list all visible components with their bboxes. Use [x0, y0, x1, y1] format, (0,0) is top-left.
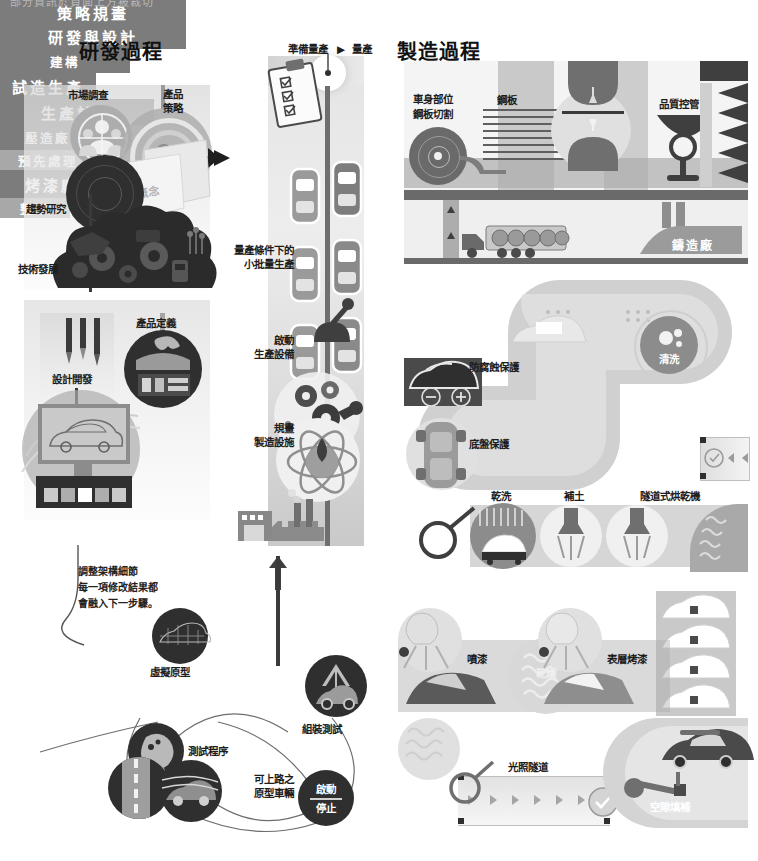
toggle-divider	[310, 798, 342, 800]
checklist-clipboard-icon	[270, 58, 326, 130]
car-top-view-2	[330, 158, 364, 220]
label-tech-development: 技術發展	[18, 262, 58, 276]
label-small-batch: 量產條件下的小批量生產	[212, 243, 294, 271]
car-door-icon-1	[404, 660, 504, 712]
pillar-markers	[444, 204, 458, 260]
monitor-stand	[74, 464, 92, 476]
filler-nozzle-icon-1	[552, 508, 590, 562]
magnifier-icon	[418, 508, 480, 560]
deck-key-3	[78, 488, 92, 502]
deck-key-2	[61, 488, 75, 502]
bar-foundry[interactable]: 鑄造廠	[672, 238, 714, 254]
slider-handle-bl[interactable]	[700, 473, 706, 479]
car-top-view-4	[330, 236, 364, 298]
aero-car-icon	[162, 768, 220, 816]
deck-key-1	[44, 488, 58, 502]
label-design-development: 設計開發	[52, 372, 92, 386]
saw-blade-icon	[700, 61, 748, 191]
page-title-development: 研發過程	[79, 36, 163, 65]
toggle-label-stop: 停止	[298, 801, 354, 815]
pens-icon	[62, 318, 106, 370]
lever-icon	[306, 300, 358, 344]
slider-controls-icon[interactable]	[704, 448, 750, 468]
car-door-icon-2	[542, 660, 642, 712]
label-assembly-test: 組裝測試	[302, 722, 342, 736]
label-start-equipment: 啟動生產設備	[212, 333, 294, 361]
tunnel-handle-bl[interactable]	[458, 818, 464, 824]
label-road-legal-prototype: 可上路之原型車輛	[230, 772, 294, 800]
toggle-label-start: 啟動	[298, 782, 354, 796]
label-quality-control: 品質控管	[659, 97, 699, 111]
leveling-cars-icon	[660, 596, 732, 714]
tunnel-dryer-waves-icon	[690, 500, 748, 574]
magnifier-icon-bottom	[445, 760, 497, 804]
trend-ring-2	[88, 177, 122, 211]
label-product-definition: 產品定義	[136, 316, 176, 330]
pretreatment-car-icon	[508, 308, 594, 348]
label-body-panel-cut: 車身部位鋼板切割	[413, 92, 453, 121]
cut-off-fragment-left: 部分資訊於頁面上方被裁切	[10, 0, 154, 9]
deck-key-4	[95, 488, 109, 502]
car-top-view-1	[288, 165, 322, 227]
underbody-car-icon	[414, 416, 470, 494]
coil-hub	[434, 152, 442, 160]
label-underbody-protection: 底盤保護	[469, 437, 509, 451]
annotation-line-2: 每一項修改結果都	[78, 580, 158, 596]
label-product-strategy: 產品策略	[163, 88, 183, 115]
assembly-hoist-icon	[312, 662, 360, 710]
label-washing: 清洗	[640, 352, 698, 366]
tech-cloud-icon	[44, 208, 212, 292]
annotation-line-1: 調整架構細節	[78, 564, 138, 580]
label-gap-filling: 空隙填補	[650, 800, 690, 814]
factory-icon	[234, 497, 338, 547]
label-anticorrosion: 防腐蝕保護	[469, 360, 519, 374]
label-market-research: 市場調查	[68, 88, 108, 102]
milestone-stem	[327, 54, 329, 70]
label-mass-production: 量產	[352, 42, 372, 56]
polarity-icons	[420, 386, 476, 408]
filler-nozzle-icon-2	[618, 508, 656, 562]
car-wireframe-icon	[46, 414, 122, 456]
label-light-tunnel: 光照隧道	[508, 760, 548, 774]
cut-off-top-text: 部分資訊於頁面上方被裁切	[0, 0, 748, 14]
transport-base	[404, 258, 748, 264]
tunnel-handle-br[interactable]	[604, 818, 610, 824]
label-virtual-prototype: 虛擬原型	[150, 665, 190, 679]
slider-handle-tl[interactable]	[700, 437, 706, 443]
arrow-right-icon: ▶	[337, 42, 345, 56]
press-machine-icon	[548, 61, 638, 171]
wireframe-car-icon	[158, 620, 204, 650]
deck-key-5	[112, 488, 126, 502]
bubbles-icon	[652, 326, 688, 350]
label-plan-facility: 規畫製造設施	[212, 421, 294, 449]
dry-wash-brush-icon	[474, 506, 534, 566]
label-preproduction: 準備量產	[288, 42, 328, 56]
label-test-procedure: 測試程序	[188, 744, 228, 758]
label-filler: 補土	[564, 489, 584, 503]
label-dry-wash: 乾洗	[491, 489, 511, 503]
